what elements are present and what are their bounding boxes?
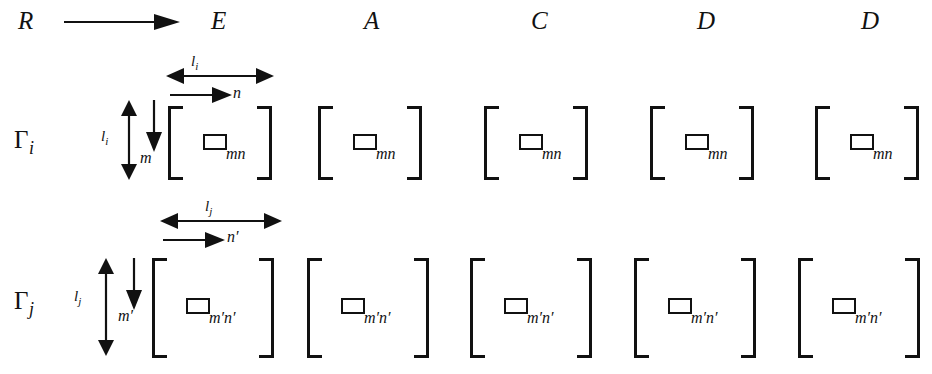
- row-index-label-row-1: m′: [118, 308, 133, 324]
- row-label-gamma-i-base: Γ: [14, 126, 28, 153]
- right-bracket-icon: [573, 106, 588, 180]
- cell-box: [186, 298, 210, 314]
- matrix-row-0-col-1: mn: [318, 106, 422, 180]
- column-header-3: D: [697, 8, 715, 33]
- cell-subscript: m′n′: [691, 310, 718, 326]
- right-bracket-icon: [739, 106, 754, 180]
- left-bracket-icon: [152, 258, 167, 358]
- column-index-label-row-1: n′: [227, 229, 239, 245]
- matrix-row-0-col-0: mn: [168, 106, 272, 180]
- right-bracket-icon: [259, 258, 274, 358]
- matrix-row-0-col-4: mn: [815, 106, 919, 180]
- cell-subscript: m′n′: [364, 310, 391, 326]
- row-label-gamma-j-base: Γ: [14, 287, 28, 314]
- cell-box: [341, 298, 365, 314]
- matrix-row-1-col-1: m′n′: [307, 258, 429, 358]
- column-header-1: A: [364, 8, 379, 33]
- column-header-0: E: [211, 8, 226, 33]
- row-label-gamma-i: Γi: [14, 127, 34, 157]
- row-index-label-row-0: m: [140, 150, 152, 166]
- height-double-arrow-row-0: [119, 100, 139, 180]
- right-bracket-icon: [741, 258, 756, 358]
- cell-subscript: m′n′: [209, 310, 236, 326]
- cell-box: [504, 298, 528, 314]
- row-index-arrow-row-1: [125, 258, 143, 310]
- right-bracket-icon: [577, 258, 592, 358]
- row-label-gamma-j: Γj: [14, 288, 34, 318]
- matrix-row-0-col-3: mn: [650, 106, 754, 180]
- cell-box: [203, 134, 227, 150]
- matrix-row-1-col-2: m′n′: [470, 258, 592, 358]
- width-double-arrow-row-0: [166, 66, 274, 86]
- right-bracket-icon: [407, 106, 422, 180]
- left-bracket-icon: [470, 258, 485, 358]
- width-double-arrow-row-1: [160, 211, 282, 231]
- left-bracket-icon: [307, 258, 322, 358]
- left-bracket-icon: [168, 106, 183, 180]
- column-index-label-row-0: n: [233, 85, 241, 101]
- column-index-arrow-row-0: [170, 86, 232, 104]
- row-label-gamma-i-sub: i: [29, 138, 34, 158]
- cell-subscript: mn: [376, 146, 396, 162]
- left-bracket-icon: [318, 106, 333, 180]
- row-label-gamma-j-sub: j: [29, 299, 34, 319]
- matrix-row-1-col-3: m′n′: [634, 258, 756, 358]
- height-label-row-0-sub: i: [105, 135, 108, 147]
- left-bracket-icon: [484, 106, 499, 180]
- right-bracket-icon: [414, 258, 429, 358]
- cell-box: [353, 134, 377, 150]
- cell-subscript: mn: [708, 146, 728, 162]
- column-header-4: D: [861, 8, 879, 33]
- cell-box: [850, 134, 874, 150]
- left-bracket-icon: [634, 258, 649, 358]
- column-index-arrow-row-1: [163, 231, 225, 249]
- left-bracket-icon: [798, 258, 813, 358]
- height-label-row-1: lj: [74, 289, 81, 307]
- right-bracket-icon: [257, 106, 272, 180]
- cell-subscript: mn: [542, 146, 562, 162]
- height-double-arrow-row-1: [96, 258, 116, 356]
- height-label-row-0: li: [101, 129, 108, 147]
- matrix-dimension-diagram: R E A C D D Γi li n li m: [0, 0, 932, 374]
- column-header-2: C: [531, 8, 548, 33]
- cell-box: [832, 298, 856, 314]
- matrix-row-0-col-2: mn: [484, 106, 588, 180]
- matrix-row-1-col-4: m′n′: [798, 258, 920, 358]
- right-bracket-icon: [904, 106, 919, 180]
- right-bracket-icon: [905, 258, 920, 358]
- left-bracket-icon: [815, 106, 830, 180]
- cell-box: [668, 298, 692, 314]
- cell-box: [685, 134, 709, 150]
- height-label-row-1-sub: j: [78, 295, 81, 307]
- row-source-label-R: R: [18, 8, 33, 33]
- cell-subscript: m′n′: [855, 310, 882, 326]
- cell-subscript: mn: [873, 146, 893, 162]
- cell-subscript: mn: [226, 146, 246, 162]
- cell-subscript: m′n′: [527, 310, 554, 326]
- row-index-arrow-row-0: [145, 100, 163, 152]
- left-bracket-icon: [650, 106, 665, 180]
- cell-box: [519, 134, 543, 150]
- matrix-row-1-col-0: m′n′: [152, 258, 274, 358]
- right-arrow-icon: [64, 12, 182, 32]
